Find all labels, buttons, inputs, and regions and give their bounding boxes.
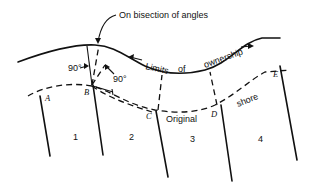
- point-label-A: A: [44, 93, 51, 103]
- ownership-label: ownership: [202, 46, 244, 69]
- bisector-line-B: [92, 45, 99, 85]
- bisection-leader-arrow: [98, 15, 116, 42]
- point-label-E: E: [272, 69, 279, 79]
- shore-label: shore: [235, 91, 260, 109]
- offset-shore-line: [92, 86, 152, 112]
- bisection-arrowhead-icon: [95, 38, 101, 44]
- lot-line-E: [280, 66, 297, 160]
- angle-left-arrowhead-icon: [84, 63, 89, 69]
- limits-label: Limits: [145, 61, 171, 76]
- extension-line-C: [158, 75, 162, 110]
- lot-line-A: [40, 96, 50, 156]
- point-label-D: D: [210, 109, 218, 119]
- lot-number-4: 4: [258, 134, 263, 144]
- lot-line-B: [93, 85, 103, 155]
- angle-label-left: 90°: [68, 63, 82, 73]
- point-label-B: B: [84, 87, 89, 97]
- lot-number-1: 1: [73, 132, 78, 142]
- extension-line-D: [210, 72, 217, 105]
- original-label: Original: [166, 114, 197, 124]
- riparian-boundary-diagram: On bisection of angles Limits of ownersh…: [0, 0, 314, 192]
- bisection-label: On bisection of angles: [119, 10, 209, 20]
- of-label: of: [178, 64, 186, 74]
- lot-number-3: 3: [190, 134, 195, 144]
- angle-label-right: 90°: [113, 74, 127, 84]
- lot-number-2: 2: [129, 132, 134, 142]
- perpendicular-tick: [112, 89, 113, 95]
- ownership-arrowhead-icon: [248, 43, 254, 49]
- lot-line-D: [221, 105, 232, 181]
- point-label-C: C: [146, 111, 152, 121]
